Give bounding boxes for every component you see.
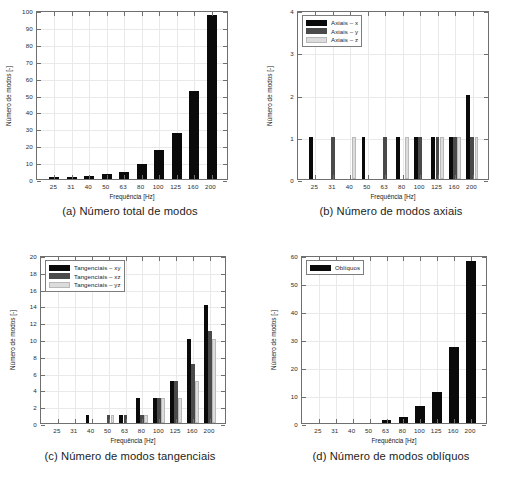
y-axis-tick-label: 20 (12, 143, 33, 150)
figure-sheet: 0102030405060708090100253140506380100125… (0, 0, 521, 486)
y-axis-tick-label: 10 (12, 160, 33, 167)
y-axis-tick-label: 10 (277, 393, 298, 400)
x-axis-tick (455, 175, 456, 179)
bar (383, 137, 387, 179)
y-axis-tick (302, 369, 306, 370)
x-axis-tick (454, 257, 455, 261)
y-axis-tick (37, 147, 41, 148)
y-axis-tick (221, 274, 225, 275)
y-axis-tick (223, 63, 227, 64)
y-axis-tick-label: 60 (12, 75, 33, 82)
x-axis-title: Frequência [Hz] (297, 193, 489, 200)
y-axis-tick (223, 113, 227, 114)
y-axis-tick-label: 3 (273, 50, 294, 57)
y-axis-tick-label: 40 (12, 109, 33, 116)
x-axis-tick (176, 419, 177, 423)
bar (362, 137, 366, 179)
x-axis-tick (370, 257, 371, 261)
bar (195, 381, 199, 423)
gridline-vertical (403, 257, 404, 423)
y-axis-tick (298, 54, 302, 55)
x-axis-tick (210, 419, 211, 423)
y-axis-tick (221, 341, 225, 342)
x-axis-tick-label: 200 (199, 183, 223, 190)
bar (457, 137, 461, 179)
y-axis-tick (37, 130, 41, 131)
y-axis-tick (41, 408, 45, 409)
legend-item[interactable]: Tangenciais – xy (49, 264, 121, 272)
x-axis-tick (437, 419, 438, 423)
gridline-vertical (72, 12, 73, 179)
bar (144, 415, 148, 423)
gridline-horizontal (302, 341, 486, 342)
gridline-horizontal (41, 375, 225, 376)
legend-item[interactable]: Oblíquos (310, 264, 360, 272)
x-axis-tick (420, 175, 421, 179)
subplot-a-axes (36, 11, 228, 180)
x-axis-tick (473, 12, 474, 16)
x-axis-tick (89, 12, 90, 16)
y-axis-tick-label: 30 (277, 337, 298, 344)
x-axis-tick (159, 175, 160, 179)
y-axis-title: Número de modos [-] (266, 65, 273, 125)
subplot-b-caption: (b) Número de modos axiais (261, 205, 521, 217)
bar (172, 133, 182, 179)
legend-label: Oblíquos (335, 264, 360, 271)
legend-label: Tangenciais – xz (74, 273, 121, 280)
y-axis-tick (484, 12, 488, 13)
y-axis-tick-label: 18 (16, 269, 37, 276)
x-axis-tick (403, 419, 404, 423)
gridline-horizontal (298, 97, 488, 98)
subplot-d: 0102030405060253140506380100125160200Fre… (261, 243, 521, 486)
x-axis-tick (319, 419, 320, 423)
legend: Tangenciais – xyTangenciais – xzTangenci… (45, 260, 125, 292)
legend-item[interactable]: Axiais – x (306, 19, 358, 27)
y-axis-tick (482, 285, 486, 286)
legend: Axiais – xAxiais – yAxiais – z (302, 15, 362, 47)
x-axis-tick (210, 257, 211, 261)
y-axis-tick (37, 164, 41, 165)
legend-label: Tangenciais – xy (74, 264, 121, 271)
x-axis-tick (471, 257, 472, 261)
legend-item[interactable]: Axiais – z (306, 36, 358, 44)
x-axis-tick (368, 175, 369, 179)
legend-item[interactable]: Axiais – y (306, 27, 358, 35)
x-axis-tick (403, 12, 404, 16)
x-axis-tick (176, 257, 177, 261)
gridline-vertical (420, 257, 421, 423)
x-axis-tick (368, 12, 369, 16)
y-axis-tick (41, 425, 45, 426)
bar (449, 347, 459, 423)
y-axis-tick-label: 50 (12, 92, 33, 99)
subplot-d-caption: (d) Número de modos oblíquos (261, 450, 521, 462)
y-axis-tick (302, 285, 306, 286)
bar (178, 398, 182, 423)
y-axis-title: Número de modos [-] (9, 310, 16, 370)
x-axis-title: Frequência [Hz] (36, 193, 228, 200)
y-axis-tick (221, 375, 225, 376)
legend-item[interactable]: Tangenciais – yz (49, 281, 121, 289)
x-axis-tick (142, 175, 143, 179)
y-axis-tick (298, 181, 302, 182)
x-axis-tick (126, 419, 127, 423)
x-axis-tick (124, 175, 125, 179)
subplot-a-plot-area (37, 12, 227, 179)
x-axis-tick (107, 12, 108, 16)
subplot-d-plot-area (302, 257, 486, 423)
y-axis-tick (482, 313, 486, 314)
y-axis-tick-label: 50 (277, 281, 298, 288)
y-axis-tick (37, 29, 41, 30)
y-axis-tick (221, 408, 225, 409)
subplot-b: 01234253140506380100125160200Frequência … (261, 0, 521, 243)
y-axis-tick-label: 14 (16, 303, 37, 310)
gridline-vertical (353, 257, 354, 423)
y-axis-tick-label: 6 (16, 370, 37, 377)
subplot-a-caption: (a) Número total de modos (0, 205, 260, 217)
legend-label: Axiais – y (331, 28, 358, 35)
y-axis-tick (302, 313, 306, 314)
legend-item[interactable]: Tangenciais – xz (49, 272, 121, 280)
y-axis-tick (221, 391, 225, 392)
y-axis-tick (484, 181, 488, 182)
y-axis-tick (41, 324, 45, 325)
x-axis-tick (420, 419, 421, 423)
